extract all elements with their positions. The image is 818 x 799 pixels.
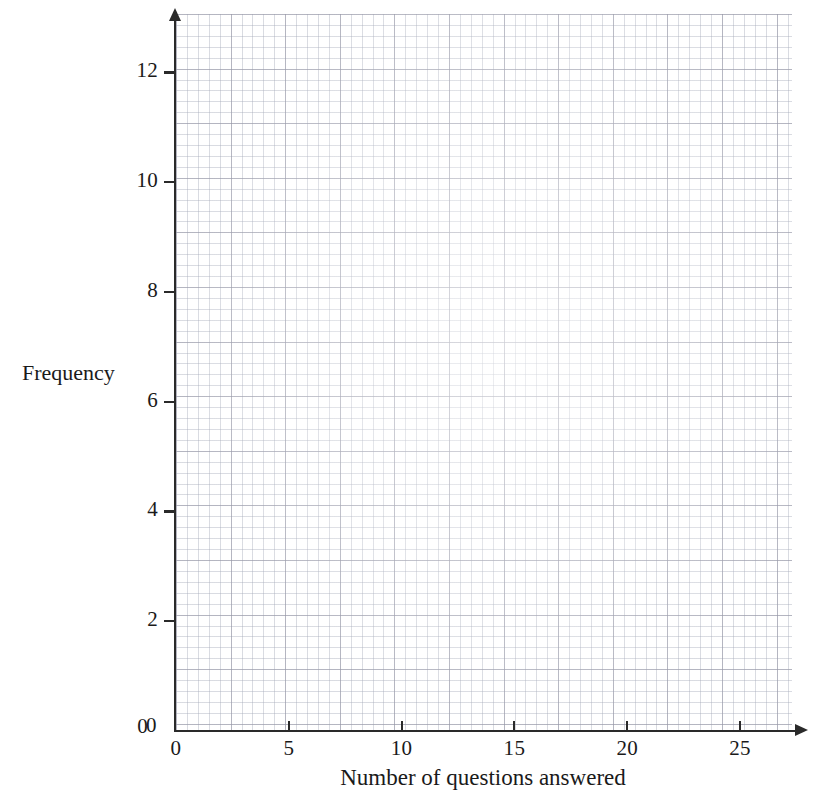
origin-label: 0 — [146, 713, 157, 738]
y-axis-tick — [164, 291, 176, 293]
y-axis-tick — [164, 401, 176, 403]
x-axis-tick — [288, 721, 290, 732]
y-axis-tick-label: 12 — [0, 58, 158, 83]
y-axis-title: Frequency — [22, 360, 115, 386]
y-axis-tick-label: 4 — [0, 497, 158, 522]
x-axis-arrow-icon — [795, 724, 808, 736]
y-axis-tick — [164, 71, 176, 73]
x-axis-tick — [401, 721, 403, 732]
x-axis-tick — [513, 721, 515, 732]
graph-paper-grid — [176, 14, 792, 731]
y-axis-tick-label: 10 — [0, 168, 158, 193]
x-axis-title: Number of questions answered — [0, 765, 818, 791]
y-axis-tick-label: 8 — [0, 278, 158, 303]
y-axis-tick — [164, 510, 176, 512]
y-axis-tick — [164, 620, 176, 622]
y-axis-line — [174, 17, 176, 732]
graph-worksheet: 121086420 0510152025 0 Frequency Number … — [0, 0, 818, 799]
y-axis-tick-label: 2 — [0, 607, 158, 632]
x-axis-tick — [626, 721, 628, 732]
y-axis-tick-label: 0 — [0, 714, 148, 739]
y-axis-tick — [164, 181, 176, 183]
x-axis-tick-label: 15 — [484, 736, 544, 761]
y-axis-arrow-icon — [169, 8, 181, 21]
x-axis-tick-label: 10 — [372, 736, 432, 761]
x-axis-line — [176, 730, 802, 732]
x-axis-tick-label: 25 — [710, 736, 770, 761]
x-axis-tick-label: 20 — [597, 736, 657, 761]
x-axis-title-text: Number of questions answered — [340, 765, 626, 791]
x-axis-tick — [739, 721, 741, 732]
x-axis-tick-label: 0 — [146, 736, 206, 761]
y-axis-tick-label: 6 — [0, 388, 158, 413]
x-axis-tick-label: 5 — [259, 736, 319, 761]
